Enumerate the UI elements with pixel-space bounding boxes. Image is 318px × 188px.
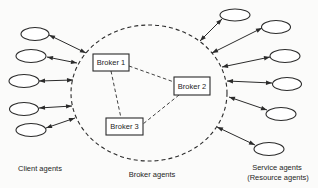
service-agent-arrow	[212, 28, 262, 53]
client-agent-arrow	[39, 104, 72, 110]
broker-link	[143, 95, 179, 124]
broker-label: Broker 1	[97, 58, 125, 67]
client-agent-node	[16, 50, 46, 63]
broker-label: Broker 2	[178, 82, 206, 91]
client-agent-arrow	[47, 56, 77, 64]
service-agent-node	[254, 143, 284, 156]
service-agents-caption-line2: (Resource agents)	[247, 173, 309, 182]
service-agent-arrow	[222, 56, 270, 68]
service-agent-arrow	[229, 97, 267, 110]
client-agent-node	[21, 28, 49, 41]
service-agent-node	[270, 50, 300, 63]
client-agent-arrow	[49, 35, 86, 53]
service-agent-arrow	[217, 127, 255, 145]
broker-link	[111, 71, 121, 118]
service-agent-node	[266, 108, 296, 121]
broker-node: Broker 1	[93, 54, 129, 71]
client-agents-caption: Client agents	[18, 164, 62, 173]
diagram-canvas: Broker 1Broker 2Broker 3 Client agents B…	[0, 0, 318, 188]
client-agent-arrow	[46, 118, 75, 128]
service-agent-arrow	[227, 79, 272, 85]
service-agents-caption-line1: Service agents	[252, 163, 302, 172]
client-agent-node	[10, 103, 39, 116]
service-agent-node	[220, 9, 250, 21]
agent-broker-network-figure: Broker 1Broker 2Broker 3 Client agents B…	[0, 0, 318, 188]
broker-agents-caption: Broker agents	[129, 170, 176, 179]
client-agent-node	[9, 75, 39, 88]
broker-label: Broker 3	[110, 122, 138, 131]
generated-layer: Broker 1Broker 2Broker 3	[9, 9, 302, 161]
broker-node: Broker 3	[106, 118, 143, 135]
broker-link	[129, 66, 174, 82]
client-agent-arrow	[39, 78, 73, 83]
service-agent-node	[262, 21, 291, 34]
client-agent-node	[16, 124, 46, 137]
broker-node: Broker 2	[174, 77, 210, 95]
service-agent-arrow	[200, 19, 222, 41]
service-agent-node	[273, 78, 302, 91]
